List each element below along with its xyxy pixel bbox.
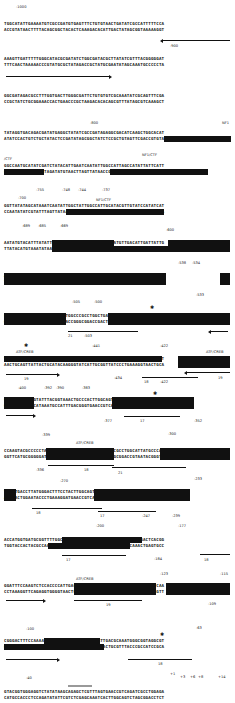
- position-label: -533: [196, 293, 204, 297]
- bottom-strand: ACCGTATAACTTTTACAGCGGCTACACTCAAAGACACATT…: [4, 27, 232, 33]
- repeat-length: 17: [66, 558, 71, 562]
- position-label: +14: [218, 675, 226, 679]
- position-label: -177: [178, 524, 186, 528]
- site-highlight: [4, 273, 166, 285]
- repeat-bar: [112, 467, 186, 468]
- repeat-bar: [124, 416, 180, 417]
- repeat-length: 18: [144, 380, 149, 384]
- repeat-arrow: [6, 76, 110, 77]
- site-highlight: [4, 644, 104, 650]
- position-label: -900: [170, 44, 178, 48]
- position-label: -422: [160, 380, 168, 384]
- position-label: -441: [92, 344, 100, 348]
- position-label: -63: [196, 626, 202, 630]
- position-label: -800: [90, 121, 98, 125]
- position-label: -737: [102, 188, 110, 192]
- sequence-block-1: TGGCATATTGAAAATGTCGCCGATGTGAGTTTCTGTGTAA…: [4, 21, 232, 33]
- site-highlight: [4, 356, 162, 362]
- repeat-arrow: [186, 372, 230, 373]
- site-highlight: [178, 356, 230, 368]
- position-label: -748: [62, 188, 70, 192]
- bottom-strand: CATGCCACCCTCCAGATATATTCGTCTCGAGCAAATCACT…: [4, 695, 232, 701]
- position-label: -336: [36, 468, 44, 472]
- position-label: -600: [166, 228, 174, 232]
- position-label: -377: [104, 419, 112, 423]
- repeat-bar: [68, 331, 138, 332]
- repeat-bar: [62, 555, 126, 556]
- site-highlight: [166, 583, 230, 595]
- site-label: NF1: [222, 121, 229, 125]
- position-label: -109: [208, 602, 216, 606]
- site-highlight: [48, 543, 130, 549]
- position-label: -239: [172, 514, 180, 518]
- position-label: +1: [170, 672, 175, 676]
- position-label: -669: [60, 224, 68, 228]
- repeat-arrow: [6, 659, 58, 660]
- position-label: -392: [44, 386, 52, 390]
- position-label: -233: [194, 477, 202, 481]
- position-label: -505: [72, 300, 80, 304]
- position-label: -422: [160, 344, 168, 348]
- position-label: -184: [154, 557, 162, 561]
- site-highlight: [4, 169, 44, 175]
- position-label: +6: [190, 675, 195, 679]
- position-label: +8: [198, 675, 203, 679]
- repeat-length: 18: [84, 468, 89, 472]
- position-label: -40: [26, 676, 32, 680]
- position-label: -1000: [16, 5, 26, 9]
- repeat-bar: [74, 600, 142, 601]
- site-highlight: [94, 489, 190, 501]
- position-label: -534: [192, 261, 200, 265]
- repeat-length: 17: [140, 419, 145, 423]
- site-highlight: [52, 246, 162, 252]
- repeat-length: 19: [218, 376, 223, 380]
- repeat-length: 18: [36, 511, 41, 515]
- position-label: -538: [178, 261, 186, 265]
- repeat-bar: [48, 465, 114, 466]
- site-highlight: [4, 489, 16, 501]
- site-highlight: [220, 273, 230, 285]
- star-marker: ✱: [24, 342, 28, 348]
- repeat-arrow: [210, 331, 228, 332]
- position-label: -383: [82, 386, 90, 390]
- repeat-bar: [32, 508, 102, 509]
- repeat-bar: [128, 659, 192, 660]
- position-label: -685: [38, 224, 46, 228]
- repeat-bar: [98, 511, 156, 512]
- repeat-arrow: [6, 600, 44, 601]
- position-label: -434: [114, 376, 122, 380]
- position-label: -755: [36, 188, 44, 192]
- repeat-length: 18: [204, 558, 209, 562]
- repeat-length: 18: [158, 662, 163, 666]
- bottom-strand: TTTCAACTAAAAACCCGTATGCGCTATAGACCGCTATGCG…: [4, 62, 232, 68]
- site-highlight: [4, 313, 66, 325]
- tata-box-bar: [68, 685, 92, 687]
- site-highlight: [112, 397, 194, 409]
- site-highlight: [74, 583, 156, 595]
- site-label: NF1/CTF: [142, 153, 157, 157]
- repeat-length: 19: [24, 377, 29, 381]
- position-label: -247: [142, 514, 150, 518]
- site-highlight: [110, 169, 208, 175]
- position-label: -270: [60, 479, 68, 483]
- position-label: -352: [194, 419, 202, 423]
- repeat-arrow: [6, 415, 34, 416]
- site-label: NF1/CTF: [96, 198, 111, 202]
- site-label: ATF/CREB: [206, 350, 223, 354]
- sequence-block-17: GTACGGTGGGAGGTCTATATAAGCAGAGCTCGTTTAGTGA…: [4, 689, 232, 701]
- site-label: ATF/CREB: [16, 350, 33, 354]
- repeat-length: 21: [68, 334, 73, 338]
- repeat-arrow: [6, 374, 58, 375]
- site-highlight: [158, 246, 230, 252]
- repeat-arrow: [162, 40, 230, 41]
- site-label: ATF/CREB: [76, 577, 93, 581]
- nf1-site-highlight: [164, 136, 231, 142]
- site-highlight: [160, 448, 230, 460]
- repeat-length: 21: [118, 471, 123, 475]
- repeat-length: 17: [100, 514, 105, 518]
- site-highlight: [4, 397, 34, 409]
- star-marker: ✱: [160, 631, 164, 637]
- position-label: -700: [18, 196, 26, 200]
- site-highlight: [46, 448, 114, 460]
- repeat-length: 19: [106, 603, 111, 607]
